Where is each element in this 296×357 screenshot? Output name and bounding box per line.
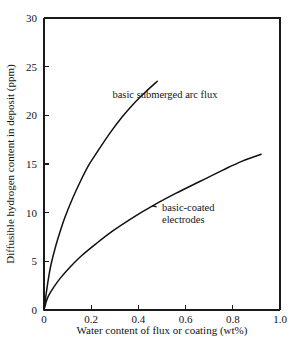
x-tick-label: 0 xyxy=(41,313,47,325)
series-curve xyxy=(44,154,261,310)
x-axis-ticks xyxy=(91,305,233,310)
annotation-leader-line xyxy=(153,206,156,207)
plot-frame-top-right xyxy=(44,18,280,310)
annotation-leader-lines xyxy=(153,206,156,207)
chart-figure: 051015202530 00.20.40.60.81.0 basic subm… xyxy=(0,0,296,357)
x-tick-label: 1.0 xyxy=(273,313,287,325)
y-tick-label: 0 xyxy=(32,304,38,316)
series-annotation-label: basic-coatedelectrodes xyxy=(162,202,215,225)
y-tick-label: 5 xyxy=(32,255,38,267)
y-tick-label: 15 xyxy=(26,158,38,170)
y-tick-label: 20 xyxy=(26,109,38,121)
y-axis-ticks xyxy=(44,18,49,261)
series-annotation-label: basic submerged arc flux xyxy=(112,89,218,100)
y-tick-label: 10 xyxy=(26,207,38,219)
x-axis-title: Water content of flux or coating (wt%) xyxy=(77,324,248,337)
y-tick-label: 25 xyxy=(26,61,38,73)
data-series-group xyxy=(44,81,261,310)
series-curve xyxy=(44,81,157,310)
y-tick-label: 30 xyxy=(26,12,38,24)
y-axis-title: Diffusible hydrogen content in deposit (… xyxy=(4,64,17,264)
y-axis-tick-labels: 051015202530 xyxy=(26,12,38,316)
line-chart: 051015202530 00.20.40.60.81.0 basic subm… xyxy=(0,0,296,357)
